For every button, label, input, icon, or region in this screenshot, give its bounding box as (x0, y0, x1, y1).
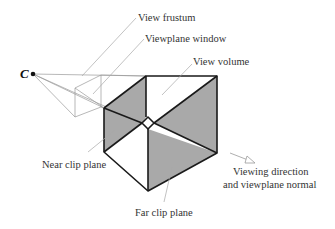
label-view-frustum: View frustum (138, 12, 195, 23)
arrow-shaft (230, 153, 248, 160)
projector-line-bottom (33, 74, 75, 117)
window-edge-top (101, 75, 146, 76)
view-volume (104, 76, 217, 191)
label-viewing-direction-1: Viewing direction (233, 166, 309, 177)
label-viewplane-window: Viewplane window (145, 33, 227, 44)
diagram-canvas: C View frustum Viewplane window View vol… (0, 0, 335, 229)
center-of-projection-label: C (20, 66, 29, 81)
viewing-direction-arrow (230, 153, 255, 163)
leader-view-frustum (82, 18, 136, 76)
label-viewing-direction-2: and viewplane normal (223, 179, 316, 190)
label-near-clip-plane: Near clip plane (42, 159, 106, 170)
view-volume-diagram: C View frustum Viewplane window View vol… (0, 0, 335, 229)
window-edge-mid (75, 88, 104, 108)
label-far-clip-plane: Far clip plane (135, 207, 193, 218)
label-view-volume: View volume (193, 56, 250, 67)
center-of-projection-point (31, 72, 36, 77)
arrow-head-icon (245, 156, 255, 163)
